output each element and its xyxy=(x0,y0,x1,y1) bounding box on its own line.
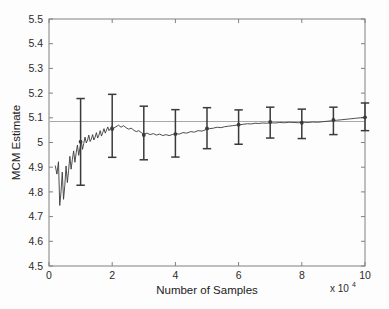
error-bar-series xyxy=(76,94,369,185)
error-bar-marker xyxy=(268,120,272,124)
y-tick-label: 4.7 xyxy=(28,210,43,222)
y-tick-label: 5.3 xyxy=(28,62,43,74)
x-tick-label: 4 xyxy=(172,269,178,281)
error-bar-marker xyxy=(79,140,83,144)
y-tick-label: 4.5 xyxy=(28,260,43,272)
error-bar-marker xyxy=(363,115,367,119)
x-tick-label: 10 xyxy=(359,269,371,281)
y-tick-label: 5.5 xyxy=(28,13,43,25)
error-bar-marker xyxy=(110,127,114,131)
x-tick-label: 6 xyxy=(236,269,242,281)
running-estimate-line xyxy=(55,117,365,205)
y-tick-label: 5 xyxy=(37,136,43,148)
x-axis-exponent-value: 4 xyxy=(352,281,356,288)
x-axis-title: Number of Samples xyxy=(156,284,258,296)
figure-container: 4.54.64.74.84.955.15.25.35.45.50246810Nu… xyxy=(0,0,389,309)
error-bar-marker xyxy=(174,132,178,136)
error-bar-marker xyxy=(237,123,241,127)
x-axis: 0246810 xyxy=(46,19,371,281)
y-tick-label: 4.9 xyxy=(28,161,43,173)
y-tick-label: 5.1 xyxy=(28,111,43,123)
y-tick-label: 4.6 xyxy=(28,235,43,247)
x-tick-label: 0 xyxy=(46,269,52,281)
mcm-estimate-chart: 4.54.64.74.84.955.15.25.35.45.50246810Nu… xyxy=(0,0,389,309)
error-bar-marker xyxy=(300,121,304,125)
x-tick-label: 2 xyxy=(109,269,115,281)
y-axis-title: MCM Estimate xyxy=(10,105,22,180)
y-tick-label: 5.4 xyxy=(28,37,43,49)
x-axis-exponent-label: x 10 xyxy=(330,283,349,294)
error-bar-marker xyxy=(142,133,146,137)
x-tick-label: 8 xyxy=(299,269,305,281)
y-tick-label: 5.2 xyxy=(28,87,43,99)
error-bar-marker xyxy=(205,127,209,131)
y-tick-label: 4.8 xyxy=(28,186,43,198)
error-bar-marker xyxy=(332,118,336,122)
